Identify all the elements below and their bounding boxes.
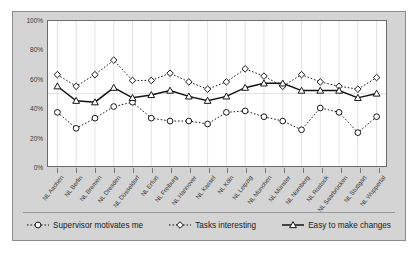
x-axis-tick bbox=[133, 168, 134, 173]
x-axis-tick bbox=[171, 168, 172, 173]
legend-item[interactable]: Supervisor motivates me bbox=[27, 220, 143, 230]
x-axis-tick bbox=[95, 168, 96, 173]
legend-label: Supervisor motivates me bbox=[53, 221, 143, 230]
x-axis-tick bbox=[341, 168, 342, 173]
x-axis-tick-label: NL Köln bbox=[216, 174, 235, 195]
circle-marker-icon bbox=[27, 220, 49, 230]
triangle-marker-icon bbox=[282, 220, 304, 230]
legend-label: Tasks interesting bbox=[195, 221, 256, 230]
x-axis-tick bbox=[246, 168, 247, 173]
y-axis-tick-label: 100% bbox=[27, 17, 43, 24]
diamond-marker-icon bbox=[169, 220, 191, 230]
data-series-layer bbox=[48, 21, 386, 166]
x-axis-tick bbox=[57, 168, 58, 173]
y-axis-tick-label: 60% bbox=[30, 75, 43, 82]
x-axis-tick bbox=[360, 168, 361, 173]
y-axis-tick-label: 20% bbox=[30, 134, 43, 141]
plot-area bbox=[47, 20, 387, 167]
x-axis-tick bbox=[303, 168, 304, 173]
x-axis-tick bbox=[322, 168, 323, 173]
x-axis-tick bbox=[114, 168, 115, 173]
y-axis-tick-label: 40% bbox=[30, 105, 43, 112]
chart-figure: 100%80%60%40%20%0% NL AachenNL BerlinNL … bbox=[12, 11, 406, 241]
y-axis-tick-label: 0% bbox=[34, 164, 43, 171]
y-axis-tick-label: 80% bbox=[30, 46, 43, 53]
legend-item[interactable]: Tasks interesting bbox=[169, 220, 256, 230]
x-axis-tick-label: NL Aachen bbox=[41, 174, 65, 202]
x-axis-tick bbox=[379, 168, 380, 173]
x-axis-tick bbox=[284, 168, 285, 173]
legend-label: Easy to make changes bbox=[308, 221, 391, 230]
legend-item[interactable]: Easy to make changes bbox=[282, 220, 391, 230]
x-axis-tick bbox=[227, 168, 228, 173]
y-axis: 100%80%60%40%20%0% bbox=[13, 12, 46, 175]
x-axis-tick bbox=[209, 168, 210, 173]
x-axis-tick bbox=[190, 168, 191, 173]
x-axis-tick bbox=[265, 168, 266, 173]
chart-legend: Supervisor motivates meTasks interesting… bbox=[23, 212, 395, 234]
x-axis-tick bbox=[76, 168, 77, 173]
x-axis-tick bbox=[152, 168, 153, 173]
